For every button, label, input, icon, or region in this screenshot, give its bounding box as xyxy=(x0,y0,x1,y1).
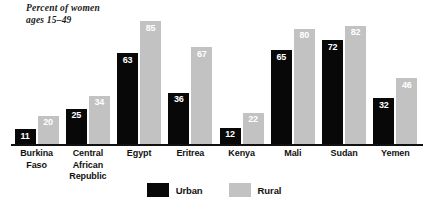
bar-rural: 82 xyxy=(345,26,366,145)
bar-value-label: 11 xyxy=(21,131,30,141)
bar-urban: 63 xyxy=(117,53,138,145)
legend-label-urban: Urban xyxy=(176,185,203,196)
bar-value-label: 34 xyxy=(95,97,105,107)
legend-item-urban: Urban xyxy=(147,183,203,197)
legend-item-rural: Rural xyxy=(229,183,282,197)
bar-urban: 36 xyxy=(168,93,189,145)
bar-value-label: 20 xyxy=(43,117,53,127)
bar-value-label: 82 xyxy=(351,27,361,37)
bar-urban: 12 xyxy=(220,128,241,145)
bar-group: 1120 xyxy=(15,14,59,145)
chart-legend: Urban Rural xyxy=(0,183,428,197)
bar-urban: 11 xyxy=(15,129,36,145)
bar-rural: 67 xyxy=(191,47,212,145)
bar-rural: 22 xyxy=(243,113,264,145)
bar-urban: 65 xyxy=(271,50,292,145)
bar-rural: 80 xyxy=(294,29,315,145)
bar-group: 3667 xyxy=(168,14,212,145)
bar-value-label: 36 xyxy=(174,94,184,104)
bar-group: 7282 xyxy=(322,14,366,145)
bar-urban: 32 xyxy=(373,98,394,145)
bar-value-label: 63 xyxy=(123,55,133,65)
rural-swatch-icon xyxy=(229,183,251,197)
urban-swatch-icon xyxy=(147,183,169,197)
bar-value-label: 46 xyxy=(402,80,412,90)
bar-group: 3246 xyxy=(373,14,417,145)
bar-value-label: 25 xyxy=(72,110,82,120)
bar-group: 6580 xyxy=(271,14,315,145)
category-label: Yemen xyxy=(359,148,428,160)
bar-value-label: 12 xyxy=(225,129,235,139)
bar-value-label: 85 xyxy=(146,23,156,33)
bar-group: 2534 xyxy=(66,14,110,145)
bar-value-label: 32 xyxy=(379,100,389,110)
bar-value-label: 67 xyxy=(197,49,207,59)
bar-rural: 85 xyxy=(140,21,161,145)
bar-urban: 72 xyxy=(322,40,343,145)
chart-figure: Percent of women ages 15–49 112025346385… xyxy=(0,0,428,207)
bar-value-label: 72 xyxy=(328,42,338,52)
bar-group: 1222 xyxy=(220,14,264,145)
bar-value-label: 22 xyxy=(248,114,258,124)
bar-value-label: 80 xyxy=(300,30,310,40)
bar-urban: 25 xyxy=(66,109,87,145)
bar-rural: 20 xyxy=(38,116,59,145)
bar-value-label: 65 xyxy=(277,52,287,62)
plot-area: 11202534638536671222658072823246 xyxy=(11,14,421,145)
bar-rural: 46 xyxy=(396,78,417,145)
bar-rural: 34 xyxy=(89,96,110,145)
bar-group: 6385 xyxy=(117,14,161,145)
legend-label-rural: Rural xyxy=(258,185,282,196)
x-axis-baseline xyxy=(11,144,423,146)
